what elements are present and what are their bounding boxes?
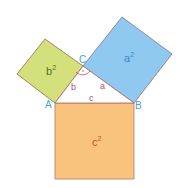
- vertex-label-b: B: [135, 100, 142, 111]
- vertex-label-c: C: [79, 54, 86, 65]
- diagram-canvas: A B C b a c b2 a2 c2: [0, 0, 183, 188]
- right-angle-dot-icon: [82, 70, 84, 72]
- side-label-c: c: [89, 93, 94, 103]
- side-label-a: a: [100, 81, 105, 91]
- side-label-b: b: [71, 82, 76, 92]
- pythagoras-diagram: A B C b a c b2 a2 c2: [0, 0, 183, 188]
- vertex-label-a: A: [45, 99, 52, 110]
